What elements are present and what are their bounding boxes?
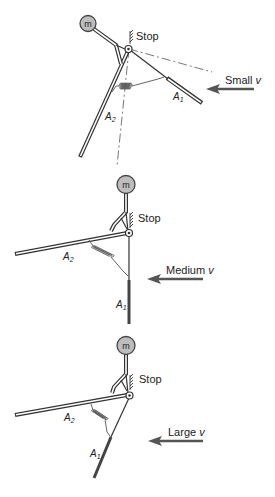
stop-label: Stop xyxy=(139,373,162,385)
arm-a2-label: A2 xyxy=(63,412,75,424)
mass-arm xyxy=(94,29,127,64)
arm-a1-label: A1 xyxy=(115,299,127,311)
pivot-icon xyxy=(126,392,133,399)
mass: m xyxy=(117,176,135,194)
arm-a2 xyxy=(80,51,128,157)
arm-a1-label: A1 xyxy=(89,448,101,460)
arm-a2 xyxy=(15,395,127,415)
arm-a2-label: A2 xyxy=(104,111,116,123)
pivot-icon xyxy=(126,230,133,237)
arm-a1 xyxy=(94,398,129,478)
arm-a2-label: A2 xyxy=(62,251,74,263)
panel-medium-velocity: Stop m A1 A2 Medium v xyxy=(15,176,215,325)
velocity-label: Large v xyxy=(168,426,206,438)
mass-label: m xyxy=(122,180,130,190)
pivot-icon xyxy=(125,46,132,53)
mass-arm xyxy=(111,193,128,231)
arm-a2 xyxy=(15,233,127,254)
velocity-label: Small v xyxy=(225,74,263,86)
mechanism-diagram: Stop m A1 A2 Small v xyxy=(0,0,275,497)
stop-hatch xyxy=(130,212,133,228)
spring xyxy=(91,404,110,436)
stop-hatch xyxy=(130,30,133,44)
mass: m xyxy=(117,337,135,355)
panel-small-velocity: Stop m A1 A2 Small v xyxy=(80,16,263,167)
mass-label: m xyxy=(84,19,92,29)
velocity-label: Medium v xyxy=(166,264,215,276)
panel-large-velocity: Stop m A1 A2 Large v xyxy=(15,337,206,479)
mass: m xyxy=(80,16,96,32)
spring xyxy=(112,77,164,92)
arm-a1-label: A1 xyxy=(172,91,184,103)
stop-hatch xyxy=(130,374,133,390)
spring xyxy=(89,240,128,276)
stop-label: Stop xyxy=(138,212,161,224)
arm-a1 xyxy=(130,50,202,103)
mass-label: m xyxy=(122,341,130,351)
stop-label: Stop xyxy=(136,30,159,42)
mass-arm xyxy=(112,354,128,393)
reference-line-a1 xyxy=(129,49,212,72)
